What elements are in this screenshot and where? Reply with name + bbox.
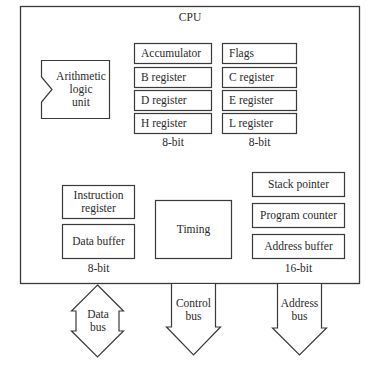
alu-label-line: logic — [50, 83, 112, 96]
timing-label: Timing — [155, 223, 232, 236]
register-label-e: E register — [229, 94, 273, 107]
address-bus-label-line: Address — [278, 297, 321, 310]
register-label-d: D register — [141, 94, 187, 107]
register-right-width-label: 8-bit — [222, 136, 297, 148]
register-label-l: L register — [229, 117, 273, 130]
address-bus-label: Address bus — [278, 297, 321, 323]
instruction-register-label-line: register — [62, 202, 135, 215]
data-section-width-label: 8-bit — [62, 262, 135, 274]
address-bus-label-line: bus — [278, 310, 321, 323]
data-bus-label-line: bus — [77, 321, 119, 334]
stack-pointer-label: Stack pointer — [252, 178, 345, 191]
address-section-width-label: 16-bit — [252, 262, 345, 274]
register-label-c: C register — [229, 71, 274, 84]
program-counter-label: Program counter — [252, 209, 345, 222]
cpu-title: CPU — [170, 11, 210, 24]
data-bus-label: Data bus — [77, 308, 119, 334]
data-buffer-label: Data buffer — [62, 235, 135, 248]
register-label-b: B register — [141, 71, 186, 84]
control-bus-label-line: bus — [172, 310, 215, 323]
register-label-accumulator: Accumulator — [141, 47, 201, 60]
alu-label-line: unit — [50, 96, 112, 109]
alu-label: Arithmetic logic unit — [50, 70, 112, 109]
register-label-h: H register — [141, 117, 187, 130]
instruction-register-label: Instruction register — [62, 189, 135, 215]
control-bus-label: Control bus — [172, 297, 215, 323]
alu-label-line: Arithmetic — [50, 70, 112, 83]
register-left-width-label: 8-bit — [134, 136, 212, 148]
control-bus-label-line: Control — [172, 297, 215, 310]
register-label-flags: Flags — [229, 47, 254, 60]
instruction-register-label-line: Instruction — [62, 189, 135, 202]
address-buffer-label: Address buffer — [252, 240, 345, 253]
data-bus-label-line: Data — [77, 308, 119, 321]
